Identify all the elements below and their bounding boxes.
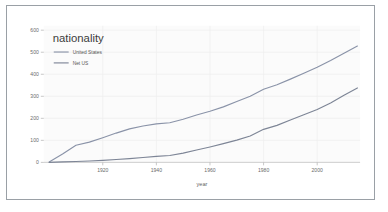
- line-chart: 0100200300400500600 19201940196019802000…: [7, 6, 374, 199]
- x-tick-label: 1920: [97, 167, 108, 173]
- y-axis-ticks: 0100200300400500600: [30, 27, 43, 165]
- y-tick-label: 100: [30, 137, 39, 143]
- y-tick-label: 300: [30, 93, 39, 99]
- y-tick-label: 0: [36, 159, 39, 165]
- legend-label-united-states: United States: [73, 50, 103, 55]
- y-tick-label: 600: [30, 27, 39, 33]
- y-tick-label: 500: [30, 49, 39, 55]
- x-axis-ticks: 19201940196019802000: [97, 162, 323, 173]
- y-tick-label: 200: [30, 115, 39, 121]
- x-tick-label: 1960: [204, 167, 215, 173]
- legend-title: nationality: [53, 32, 104, 44]
- x-tick-label: 1940: [151, 167, 162, 173]
- legend-label-net-us: Net US: [73, 61, 89, 66]
- y-tick-label: 400: [30, 71, 39, 77]
- x-tick-label: 2000: [312, 167, 323, 173]
- figure-frame: 0100200300400500600 19201940196019802000…: [6, 5, 375, 200]
- x-axis-title: year: [197, 181, 208, 187]
- x-tick-label: 1980: [258, 167, 269, 173]
